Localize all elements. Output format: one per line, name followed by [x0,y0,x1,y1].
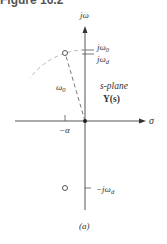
omega-0-radius-label: ω0 [56,82,66,93]
upper-zero-circle-icon [63,51,68,56]
s-plane-label: s-plane [100,81,128,91]
real-axis-label: σ [149,115,155,126]
neg-alpha-label: −α [59,125,70,135]
real-axis-arrow-icon [139,119,146,124]
lower-zero-circle-icon [63,186,68,191]
imaginary-axis-arrow-icon [83,26,88,33]
j-omega-0-label: jω0 [96,42,110,53]
function-label: Y(s) [103,94,120,105]
omega-0-radius [66,56,85,121]
j-omega-d-label: jωd [96,54,110,65]
figure-caption: (a) [79,221,90,231]
origin-dot-icon [83,119,87,123]
s-plane-diagram: jω σ jω0 jωd −jωd −α ω0 s-plane Y(s) (a) [0,0,167,244]
neg-j-omega-d-label: −jωd [96,184,115,195]
imaginary-axis-label: jω [79,10,89,20]
